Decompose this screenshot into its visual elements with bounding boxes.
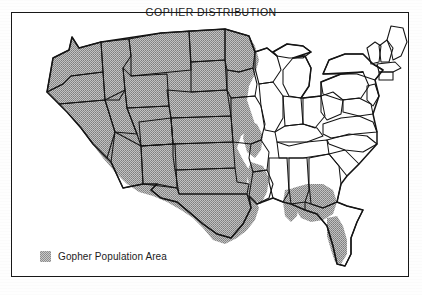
- map-svg: [11, 12, 409, 277]
- legend-label: Gopher Population Area: [58, 251, 167, 262]
- map-legend: Gopher Population Area: [40, 251, 167, 262]
- us-map: [11, 12, 409, 277]
- figure-page: GOPHER DISTRIBUTION: [0, 0, 422, 295]
- map-states: [47, 26, 407, 266]
- gray-halftone-swatch-icon: [40, 251, 51, 262]
- shaded-population-area: [47, 29, 347, 264]
